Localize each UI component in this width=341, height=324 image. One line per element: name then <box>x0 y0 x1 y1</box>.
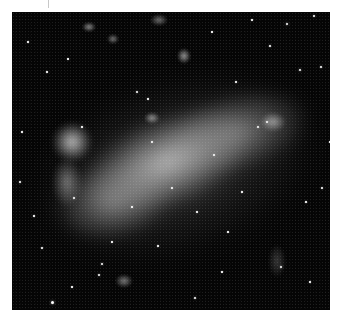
film-grain <box>12 12 330 310</box>
border-tick-mark <box>48 0 49 8</box>
galaxy-photograph <box>12 12 330 310</box>
